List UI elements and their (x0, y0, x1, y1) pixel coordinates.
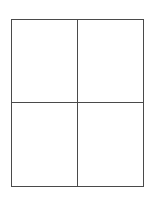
grid-cell-top-left[interactable] (12, 20, 78, 103)
grid-cell-bottom-left-label (12, 103, 77, 186)
grid-cell-bottom-left[interactable] (12, 103, 78, 186)
grid-cell-top-right[interactable] (78, 20, 144, 103)
grid-cell-bottom-right[interactable] (78, 103, 144, 186)
grid-cell-top-left-label (12, 20, 77, 102)
page-canvas (0, 0, 152, 202)
two-by-two-grid (11, 19, 144, 187)
grid-cell-top-right-label (78, 20, 144, 102)
grid-cell-bottom-right-label (78, 103, 144, 186)
